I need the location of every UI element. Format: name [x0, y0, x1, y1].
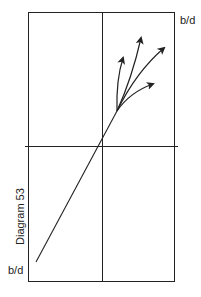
label-bottom-left: b/d	[8, 264, 23, 276]
arrow-fan	[117, 38, 164, 111]
main-trend-line	[36, 111, 117, 262]
diagram-canvas	[0, 0, 201, 297]
arrow-icon	[117, 38, 141, 111]
frame	[25, 12, 178, 282]
label-top-right: b/d	[180, 14, 195, 26]
diagram-caption: Diagram 53	[14, 188, 26, 245]
